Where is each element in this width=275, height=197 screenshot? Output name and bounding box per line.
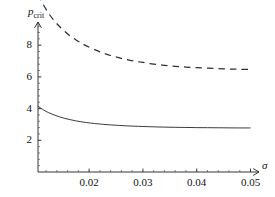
series-upper-branch: [38, 0, 251, 69]
axis-layer: [35, 22, 259, 175]
chart-canvas: [0, 0, 275, 197]
x-tick-label: 0.02: [69, 177, 109, 188]
x-tick-label: 0.05: [231, 177, 271, 188]
x-tick-label: 0.04: [177, 177, 217, 188]
series-layer: [38, 0, 251, 128]
chart-figure: pcrit σ 24680.020.030.040.05: [0, 0, 275, 197]
y-tick-label: 4: [8, 103, 32, 114]
y-axis-label-subscript: crit: [34, 11, 45, 20]
y-tick-label: 8: [8, 39, 32, 50]
y-tick-label: 2: [8, 134, 32, 145]
y-axis-label: pcrit: [28, 6, 44, 20]
y-tick-label: 6: [8, 71, 32, 82]
x-axis-label: σ: [262, 160, 267, 171]
series-lower-branch: [38, 106, 251, 128]
x-tick-label: 0.03: [123, 177, 163, 188]
